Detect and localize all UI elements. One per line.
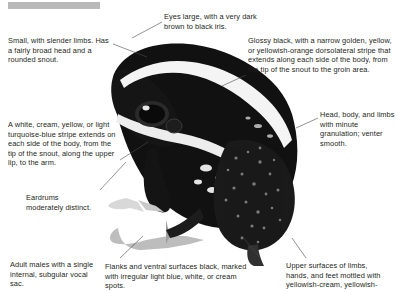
gray-title-bar — [8, 2, 100, 9]
callout-eardrums: Eardrums moderately distinct. — [26, 193, 96, 212]
callout-small-slender-limbs: Small, with slender limbs. Has a fairly … — [8, 36, 110, 65]
frog-eye-highlight — [143, 106, 150, 111]
frog-eardrum — [166, 119, 182, 133]
callout-vocal-sac: Adult males with a single internal, subg… — [10, 260, 96, 289]
callout-lateral-stripe: A white, cream, yellow, or light turquoi… — [8, 120, 116, 168]
callout-eyes: Eyes large, with a very dark brown to bl… — [164, 12, 260, 31]
frog-hand — [108, 198, 144, 212]
frog-hind-foot — [110, 228, 204, 250]
callout-head-body-granulation: Head, body, and limbs with minute granul… — [320, 110, 396, 148]
callout-flanks-ventral-surfaces: Flanks and ventral surfaces black, marke… — [105, 262, 257, 291]
figure-page: Small, with slender limbs. Has a fairly … — [0, 0, 397, 292]
callout-glossy-black-dorsolateral-stripe: Glossy black, with a narrow golden, yell… — [248, 36, 394, 74]
callout-upper-surfaces-limbs: Upper surfaces of limbs, hands, and feet… — [286, 261, 390, 290]
